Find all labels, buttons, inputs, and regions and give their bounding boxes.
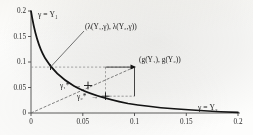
y-tick-label-1: 0.05 (13, 84, 26, 92)
lambda-point-label: (λ(Y₁,γ), λ(Y₂,γ)) (85, 22, 137, 31)
plot-svg: 0 0.05 0.1 0.15 0.2 0 0.05 0.1 0.15 0.2 (0, 0, 253, 135)
y-axis-name-label: γ = Y₁ (37, 10, 58, 19)
x-tick-label-4: 0.2 (234, 118, 243, 126)
gamma1-star-label: γ₁* (59, 81, 70, 90)
gamma1-star-arrow: → (74, 81, 81, 90)
y-tick-label-3: 0.15 (13, 33, 26, 41)
x-axis-name-label: γ = Y₂ (197, 103, 218, 112)
x-tick-label-1: 0.05 (77, 118, 90, 126)
x-tick-label-0: 0 (29, 118, 33, 126)
gamma2-star-arrow: → (91, 92, 98, 101)
y-tick-label-2: 0.1 (17, 58, 26, 66)
x-tick-label-3: 0.15 (180, 118, 193, 126)
gamma2-star-label: γ₂* (76, 92, 87, 101)
x-tick-label-2: 0.1 (130, 118, 139, 126)
figure-canvas: 0 0.05 0.1 0.15 0.2 0 0.05 0.1 0.15 0.2 (0, 0, 253, 135)
gamma1-star-marker (84, 82, 92, 90)
y-tick-label-0: 0 (22, 109, 26, 117)
lambda-leader-line (51, 31, 85, 67)
g-point-label: (g(Y₁), g(Y₂)) (139, 55, 181, 64)
y-tick-label-4: 0.2 (17, 7, 26, 15)
g-point-marker (131, 65, 137, 70)
